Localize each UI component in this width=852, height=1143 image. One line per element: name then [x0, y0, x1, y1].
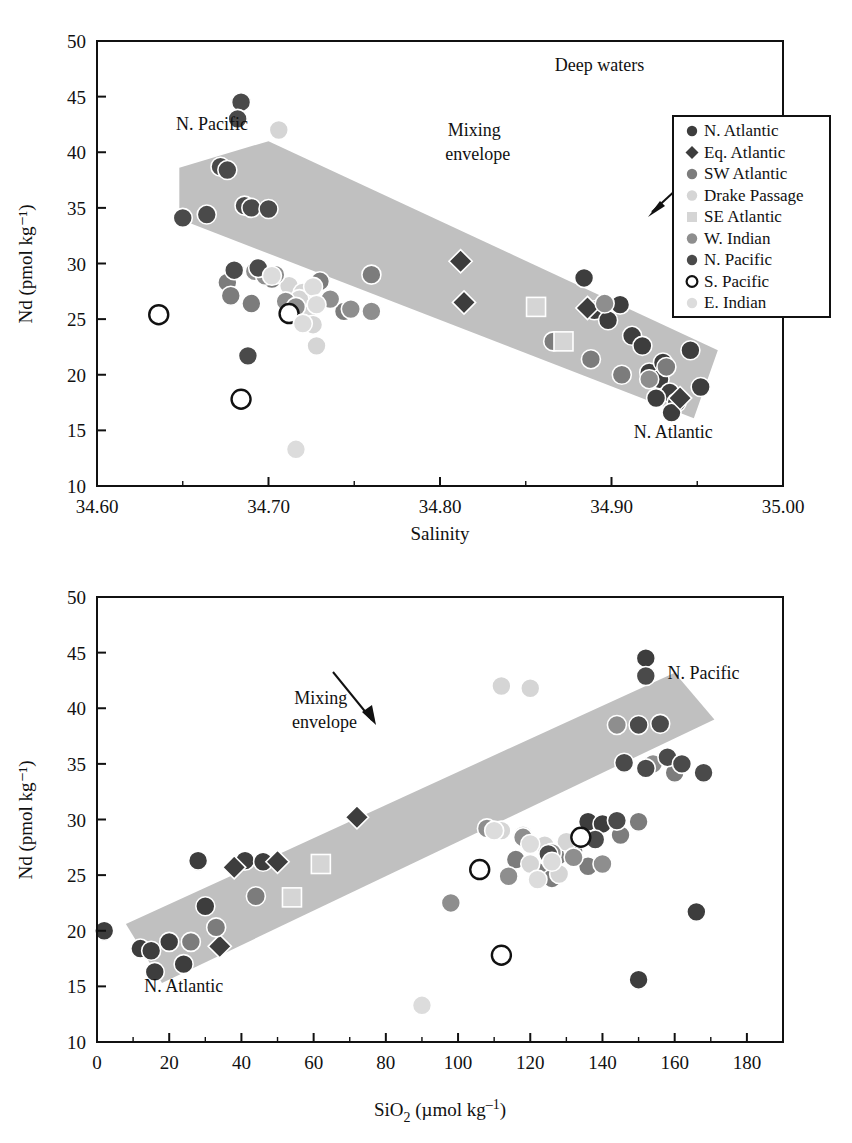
data-point-circle — [173, 208, 192, 227]
data-point-circle — [687, 902, 706, 921]
chart-nd-vs-sio2: 1015202530354045500204060801001201401601… — [0, 560, 852, 1143]
y-tick-label: 10 — [67, 476, 86, 497]
data-point-circle — [362, 302, 381, 321]
x-tick-label: 35.00 — [762, 496, 805, 517]
data-point-circle — [521, 834, 540, 853]
data-point-circle — [640, 370, 659, 389]
data-point-circle — [651, 714, 670, 733]
data-point-circle — [633, 336, 652, 355]
data-point-circle — [304, 277, 323, 296]
x-tick-label: 180 — [733, 1052, 762, 1073]
y-tick-label: 50 — [67, 587, 86, 608]
y-tick-label: 25 — [67, 309, 86, 330]
data-point-circle — [636, 759, 655, 778]
data-point-circle — [657, 357, 676, 376]
data-point-square — [554, 332, 573, 351]
annotation-label: Mixing — [448, 120, 501, 140]
legend-label: W. Indian — [704, 229, 771, 248]
data-point-square — [282, 888, 301, 907]
legend-marker-circle — [687, 255, 697, 265]
data-point-circle — [262, 266, 281, 285]
legend-label: E. Indian — [704, 293, 767, 312]
x-tick-label: 160 — [660, 1052, 689, 1073]
data-point-circle — [232, 93, 251, 112]
legend-label: SE Atlantic — [704, 207, 782, 226]
legend-label: N. Atlantic — [704, 121, 779, 140]
data-point-circle — [581, 350, 600, 369]
data-point-circle — [681, 341, 700, 360]
x-tick-label: 120 — [516, 1052, 545, 1073]
legend-marker-circle — [687, 190, 697, 200]
data-point-circle — [242, 198, 261, 217]
annotation-label: envelope — [292, 712, 357, 732]
x-tick-label: 34.90 — [590, 496, 633, 517]
annotation-label: Deep waters — [555, 55, 644, 75]
data-point-circle — [362, 265, 381, 284]
data-point-circle — [412, 996, 431, 1015]
data-point-open-circle — [149, 305, 168, 324]
data-point-circle — [307, 336, 326, 355]
legend-label: Eq. Atlantic — [704, 143, 786, 162]
y-tick-label: 35 — [67, 198, 86, 219]
y-tick-label: 35 — [67, 754, 86, 775]
data-point-circle — [599, 311, 618, 330]
legend-label: SW Atlantic — [704, 164, 788, 183]
y-tick-label: 20 — [67, 921, 86, 942]
data-point-circle — [269, 121, 288, 140]
data-point-circle — [564, 848, 583, 867]
x-tick-label: 34.70 — [247, 496, 290, 517]
data-point-circle — [142, 941, 161, 960]
data-point-circle — [615, 753, 634, 772]
data-point-circle — [221, 286, 240, 305]
y-tick-label: 45 — [67, 643, 86, 664]
data-point-open-circle — [571, 828, 590, 847]
legend-label: Drake Passage — [704, 186, 804, 205]
data-point-circle — [189, 851, 208, 870]
axis-label-x-sio2: SiO2 (µmol kg–1) — [374, 1097, 506, 1125]
data-point-circle — [595, 294, 614, 313]
data-point-circle — [691, 377, 710, 396]
data-point-circle — [485, 821, 504, 840]
y-tick-label: 45 — [67, 87, 86, 108]
data-point-circle — [672, 754, 691, 773]
data-point-open-circle — [232, 390, 251, 409]
annotation-label: N. Pacific — [668, 663, 740, 683]
data-point-circle — [521, 679, 540, 698]
x-tick-label: 0 — [92, 1052, 102, 1073]
annotation-label: N. Atlantic — [144, 976, 223, 996]
panel-nd-vs-salinity: 10152025303540455034.6034.7034.8034.9035… — [0, 0, 852, 560]
data-point-square — [311, 855, 330, 874]
panel-nd-vs-sio2: 1015202530354045500204060801001201401601… — [0, 560, 852, 1143]
x-tick-label: 20 — [160, 1052, 179, 1073]
data-point-circle — [593, 855, 612, 874]
data-point-square — [527, 297, 546, 316]
data-point-circle — [238, 346, 257, 365]
legend-marker-open-circle — [687, 276, 698, 287]
data-point-circle — [636, 649, 655, 668]
annotation-label: N. Atlantic — [634, 422, 713, 442]
axis-label-y-nd-bottom: Nd (pmol kg⁻¹) — [15, 760, 37, 879]
data-point-circle — [259, 199, 278, 218]
x-tick-label: 100 — [444, 1052, 473, 1073]
data-point-circle — [542, 852, 561, 871]
y-tick-label: 10 — [67, 1032, 86, 1053]
x-tick-label: 80 — [376, 1052, 395, 1073]
legend-label: S. Pacific — [704, 272, 770, 291]
annotation-label: envelope — [445, 144, 510, 164]
data-point-circle — [647, 389, 666, 408]
data-point-circle — [293, 314, 312, 333]
legend-marker-square — [687, 212, 697, 222]
data-point-circle — [575, 268, 594, 287]
data-point-circle — [636, 666, 655, 685]
legend-marker-circle — [687, 169, 697, 179]
figure-root: 10152025303540455034.6034.7034.8034.9035… — [0, 0, 852, 1143]
data-point-circle — [174, 955, 193, 974]
data-point-circle — [218, 161, 237, 180]
chart-nd-vs-salinity: 10152025303540455034.6034.7034.8034.9035… — [0, 0, 852, 560]
data-point-circle — [307, 295, 326, 314]
data-point-circle — [246, 887, 265, 906]
x-tick-label: 34.80 — [419, 496, 462, 517]
data-point-circle — [160, 932, 179, 951]
data-point-circle — [528, 870, 547, 889]
legend-marker-circle — [687, 126, 697, 136]
